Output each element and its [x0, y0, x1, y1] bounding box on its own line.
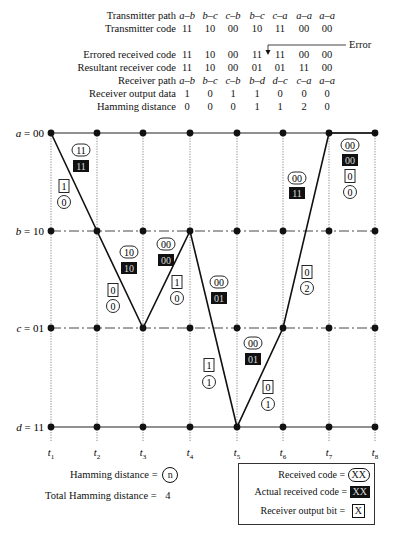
- error-arrow: [268, 45, 346, 52]
- trellis-node: [280, 424, 287, 431]
- legend-output: Receiver output bit = X: [260, 504, 365, 518]
- time-label: t4: [187, 447, 194, 461]
- state-label: b = 10: [16, 225, 45, 237]
- trellis-node: [372, 130, 379, 137]
- trellis-node: [48, 424, 55, 431]
- trellis-node: [372, 228, 379, 235]
- state-label: a = 00: [16, 127, 45, 139]
- hamming-text: 0: [175, 293, 180, 304]
- time-label: t1: [48, 447, 55, 461]
- trellis-diagram: a = 00b = 10c = 01d = 11t1t2t3t4t5t6t7t8…: [0, 0, 398, 540]
- hamming-text: 0: [111, 301, 116, 312]
- trellis-node: [140, 325, 147, 332]
- actual-code-text: 00: [345, 155, 355, 166]
- time-label: t8: [372, 447, 379, 461]
- arrow-head-icon: [266, 50, 271, 55]
- received-code-text: 11: [76, 145, 86, 156]
- time-label: t3: [140, 447, 147, 461]
- trellis-node: [140, 424, 147, 431]
- hamming-text: 2: [305, 283, 310, 294]
- received-code-text: 00: [248, 338, 258, 349]
- time-label: t2: [94, 447, 101, 461]
- actual-code-text: 11: [76, 161, 86, 172]
- hamming-text: 0: [348, 187, 353, 198]
- received-code-text: 00: [214, 277, 224, 288]
- hamming-text: 1: [207, 377, 212, 388]
- received-code-text: 00: [161, 239, 171, 250]
- output-bit-text: 1: [62, 181, 67, 192]
- trellis-node: [326, 130, 333, 137]
- legend-actual-symbol: XX: [350, 486, 370, 498]
- hamming-text: 1: [266, 399, 271, 410]
- trellis-node: [326, 325, 333, 332]
- output-bit-text: 0: [266, 382, 271, 393]
- legend-received-symbol: XX: [348, 468, 370, 482]
- time-label: t7: [326, 447, 333, 461]
- trellis-node: [326, 424, 333, 431]
- hamming-label: Hamming distance =: [70, 469, 158, 480]
- output-bit-text: 0: [111, 285, 116, 296]
- state-label: c = 01: [16, 322, 44, 334]
- output-bit-text: 1: [175, 277, 180, 288]
- trellis-node: [280, 130, 287, 137]
- hamming-legend-line: Hamming distance = n: [70, 467, 178, 483]
- trellis-node: [187, 228, 194, 235]
- trellis-node: [234, 325, 241, 332]
- received-code-text: 10: [124, 247, 134, 258]
- legend-received: Received code = XX: [278, 468, 370, 482]
- legend-actual-label: Actual received code =: [255, 486, 348, 497]
- trellis-node: [94, 228, 101, 235]
- legend-received-label: Received code =: [278, 469, 345, 480]
- trellis-node: [187, 130, 194, 137]
- total-hamming-value: 4: [165, 490, 170, 501]
- trellis-node: [48, 228, 55, 235]
- trellis-node: [140, 228, 147, 235]
- trellis-node: [372, 424, 379, 431]
- trellis-node: [140, 130, 147, 137]
- trellis-node: [280, 228, 287, 235]
- legend-output-symbol: X: [352, 504, 365, 518]
- hamming-text: 0: [62, 197, 67, 208]
- actual-code-text: 00: [161, 255, 171, 266]
- trellis-node: [234, 228, 241, 235]
- trellis-node: [234, 130, 241, 137]
- trellis-node: [94, 325, 101, 332]
- output-bit-text: 0: [348, 171, 353, 182]
- output-bit-text: 0: [305, 267, 310, 278]
- legend-actual: Actual received code = XX: [255, 486, 371, 498]
- state-label: d = 11: [16, 421, 44, 433]
- time-label: t6: [280, 447, 287, 461]
- hamming-symbol: n: [162, 467, 178, 483]
- trellis-node: [280, 325, 287, 332]
- actual-code-text: 01: [248, 354, 258, 365]
- total-hamming-line: Total Hamming distance = 4: [45, 490, 171, 501]
- trellis-node: [234, 424, 241, 431]
- trellis-node: [326, 228, 333, 235]
- actual-code-text: 11: [292, 188, 302, 199]
- output-bit-text: 1: [207, 360, 212, 371]
- legend-output-label: Receiver output bit =: [260, 505, 345, 516]
- actual-code-text: 01: [214, 293, 224, 304]
- actual-code-text: 10: [124, 263, 134, 274]
- trellis-node: [94, 130, 101, 137]
- received-code-text: 00: [292, 173, 302, 184]
- legend-box: Received code = XX Actual received code …: [238, 463, 375, 525]
- total-hamming-label: Total Hamming distance =: [45, 490, 157, 501]
- received-code-text: 00: [345, 140, 355, 151]
- trellis-node: [48, 130, 55, 137]
- trellis-node: [187, 424, 194, 431]
- trellis-node: [372, 325, 379, 332]
- trellis-node: [94, 424, 101, 431]
- trellis-node: [48, 325, 55, 332]
- trellis-node: [187, 325, 194, 332]
- time-label: t5: [234, 447, 241, 461]
